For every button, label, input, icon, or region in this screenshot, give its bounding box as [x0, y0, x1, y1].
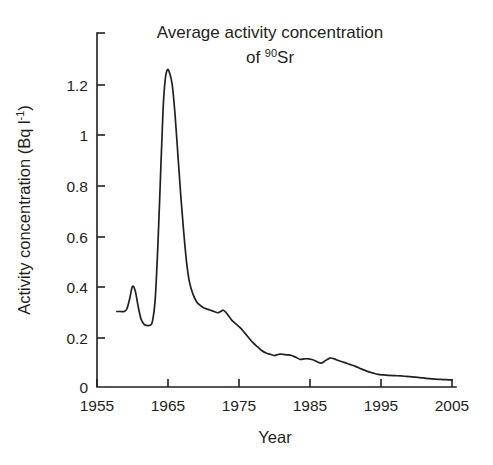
x-tick-label-1985: 1985	[293, 397, 327, 414]
y-tick-label-0.4: 0.4	[66, 279, 88, 296]
y-axis-tick-labels: 1.2 1 0.8 0.6 0.4 0.2 0	[66, 77, 88, 396]
y-axis-title-main: Activity concentration (Bq l	[15, 120, 33, 314]
y-tick-label-0.6: 0.6	[66, 229, 88, 246]
x-tick-label-1995: 1995	[364, 397, 398, 414]
x-tick-label-1965: 1965	[151, 397, 185, 414]
axis-spines	[97, 33, 456, 387]
y-tick-label-1.2: 1.2	[66, 77, 88, 94]
figure-container: Average activity concentration of 90Sr 1…	[0, 0, 493, 465]
y-axis-title-close-paren: )	[15, 105, 33, 111]
x-axis-title: Year	[258, 428, 292, 446]
chart-title-superscript-90: 90	[265, 47, 277, 59]
data-series-line	[117, 69, 452, 380]
y-axis-title: Activity concentration (Bq l-1)	[14, 105, 33, 315]
chart-title-line-1: Average activity concentration	[157, 23, 383, 42]
x-tick-label-1955: 1955	[80, 397, 114, 414]
chart-title-of: of	[246, 48, 265, 67]
chart-title-element-sr: Sr	[277, 48, 294, 67]
x-tick-label-1975: 1975	[222, 397, 256, 414]
y-tick-label-0.2: 0.2	[66, 330, 88, 347]
y-axis-ticks	[97, 33, 105, 338]
chart-title-line-2: of 90Sr	[246, 47, 294, 67]
y-tick-label-0.8: 0.8	[66, 178, 88, 195]
x-tick-label-2005: 2005	[435, 397, 469, 414]
y-axis-title-superscript: -1	[14, 111, 26, 121]
strontium-90-activity-concentration-chart: Average activity concentration of 90Sr 1…	[0, 0, 493, 465]
y-tick-label-1: 1	[79, 127, 88, 144]
x-axis-ticks	[97, 379, 452, 387]
x-axis-tick-labels: 1955 1965 1975 1985 1995 2005	[80, 397, 469, 414]
y-tick-label-0: 0	[79, 379, 88, 396]
